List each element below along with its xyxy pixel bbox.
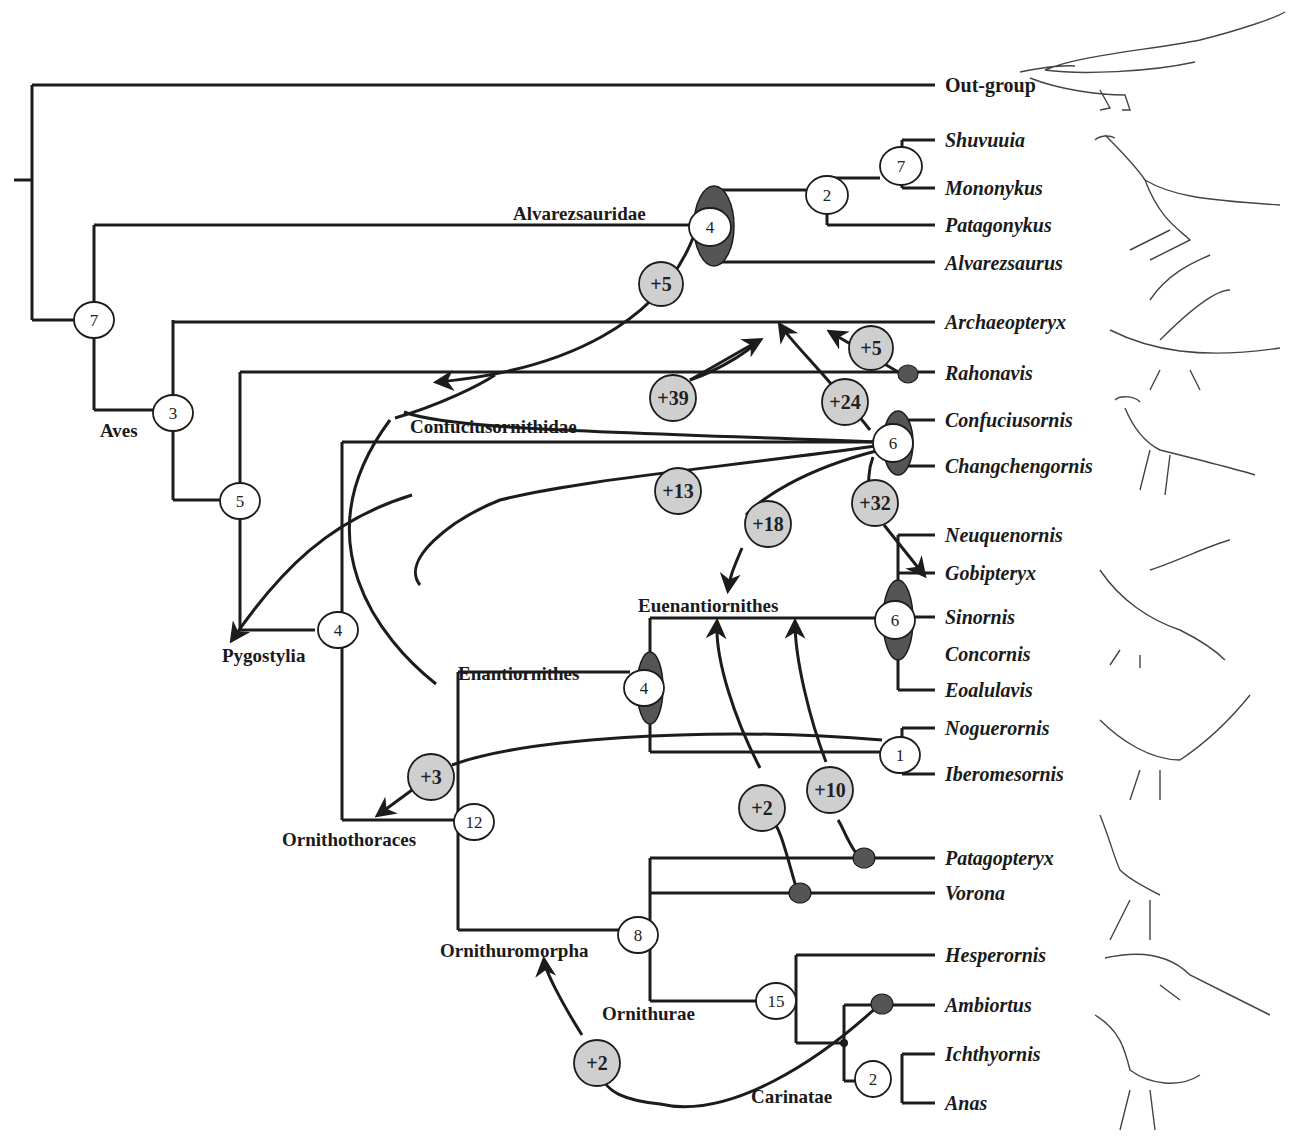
svg-text:+32: +32 [859, 492, 890, 514]
svg-text:Shuvuuia: Shuvuuia [945, 129, 1025, 151]
svg-text:Gobipteryx: Gobipteryx [945, 562, 1036, 585]
hesperornis-illustration [1105, 954, 1270, 1015]
cladogram: 7 3 5 4 4 2 7 6 6 4 1 12 8 15 2 +5 +5 [0, 0, 1303, 1148]
svg-text:Euenantiornithes: Euenantiornithes [638, 595, 778, 616]
svg-text:Ornithuromorpha: Ornithuromorpha [440, 940, 589, 961]
svg-text:+24: +24 [829, 391, 860, 413]
svg-text:+39: +39 [657, 387, 688, 409]
noguerornis-illustration [1100, 695, 1250, 800]
svg-text:5: 5 [236, 492, 245, 511]
svg-text:Confuciusornis: Confuciusornis [945, 409, 1073, 432]
svg-text:+5: +5 [650, 273, 671, 295]
svg-text:Confuciusornithidae: Confuciusornithidae [410, 416, 577, 437]
svg-text:+5: +5 [860, 337, 881, 359]
svg-text:Alvarezsauridae: Alvarezsauridae [513, 203, 646, 224]
svg-text:2: 2 [869, 1070, 878, 1089]
patagopteryx-illustration [1100, 815, 1160, 940]
archaeopteryx-illustration [1110, 255, 1280, 390]
svg-text:4: 4 [706, 218, 715, 237]
outgroup-dinosaur-illustration [1020, 12, 1285, 110]
svg-text:Eoalulavis: Eoalulavis [944, 679, 1033, 701]
svg-text:8: 8 [634, 926, 643, 945]
svg-text:6: 6 [889, 434, 898, 453]
dinosaur-illustrations [1020, 12, 1285, 1130]
svg-text:3: 3 [169, 404, 178, 423]
svg-text:7: 7 [90, 311, 99, 330]
ichthyornis-illustration [1095, 1015, 1200, 1130]
svg-text:2: 2 [823, 186, 832, 205]
svg-text:Carinatae: Carinatae [751, 1086, 832, 1107]
svg-text:Anas: Anas [943, 1092, 987, 1114]
svg-text:+3: +3 [420, 766, 441, 788]
svg-text:Patagopteryx: Patagopteryx [944, 847, 1054, 870]
alvarezsaurid-illustration [1095, 135, 1280, 260]
svg-text:Patagonykus: Patagonykus [944, 214, 1052, 237]
svg-text:15: 15 [768, 992, 785, 1011]
svg-text:12: 12 [466, 813, 483, 832]
taxon-labels: Out-group Shuvuuia Mononykus Patagonykus… [943, 74, 1093, 1114]
confuciusornis-illustration [1115, 397, 1255, 495]
svg-text:Neuquenornis: Neuquenornis [944, 524, 1063, 547]
svg-text:4: 4 [334, 621, 343, 640]
svg-text:Sinornis: Sinornis [945, 606, 1015, 628]
svg-text:Archaeopteryx: Archaeopteryx [943, 311, 1066, 334]
svg-text:+2: +2 [586, 1052, 607, 1074]
clade-labels: Alvarezsauridae Aves Confuciusornithidae… [100, 203, 832, 1107]
svg-text:+13: +13 [662, 480, 693, 502]
svg-text:Iberomesornis: Iberomesornis [944, 763, 1064, 785]
svg-text:Alvarezsaurus: Alvarezsaurus [943, 252, 1063, 274]
svg-text:Vorona: Vorona [945, 882, 1005, 904]
enantiornithine-illustration [1100, 540, 1230, 668]
svg-text:Pygostylia: Pygostylia [222, 645, 306, 666]
svg-text:Ornithothoraces: Ornithothoraces [282, 829, 416, 850]
svg-text:4: 4 [640, 679, 649, 698]
svg-text:+18: +18 [752, 513, 783, 535]
outgroup-label: Out-group [945, 74, 1036, 97]
svg-text:Rahonavis: Rahonavis [944, 362, 1033, 384]
svg-text:Hesperornis: Hesperornis [944, 944, 1046, 967]
svg-text:Enantiornithes: Enantiornithes [458, 663, 579, 684]
svg-text:+10: +10 [814, 779, 845, 801]
svg-text:Ambiortus: Ambiortus [943, 994, 1032, 1016]
svg-text:Ornithurae: Ornithurae [602, 1003, 695, 1024]
svg-text:Mononykus: Mononykus [944, 177, 1043, 200]
svg-text:6: 6 [891, 611, 900, 630]
svg-text:Ichthyornis: Ichthyornis [944, 1043, 1041, 1066]
svg-text:7: 7 [897, 157, 906, 176]
svg-text:Concornis: Concornis [945, 643, 1031, 665]
svg-text:1: 1 [896, 746, 905, 765]
svg-text:Aves: Aves [100, 420, 138, 441]
svg-text:Noguerornis: Noguerornis [944, 717, 1050, 740]
svg-text:+2: +2 [751, 797, 772, 819]
svg-text:Changchengornis: Changchengornis [945, 455, 1093, 478]
